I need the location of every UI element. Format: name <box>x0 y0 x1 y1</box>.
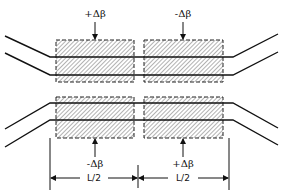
top-coupler: +Δβ -Δβ <box>5 8 278 82</box>
bottom-coupler: -Δβ +Δβ <box>5 97 278 169</box>
length-dimensions: L/2 L/2 <box>50 138 229 190</box>
top-right-delta-beta-label: -Δβ <box>175 8 192 19</box>
top-left-delta-beta-label: +Δβ <box>84 8 106 19</box>
coupler-diagram: +Δβ -Δβ -Δβ +Δβ L/2 L/2 <box>0 0 283 192</box>
dim-right-label: L/2 <box>176 173 190 183</box>
bottom-waveguide-lower <box>5 120 278 147</box>
bottom-waveguide-upper <box>5 103 278 129</box>
top-waveguide-upper <box>5 34 278 57</box>
bottom-right-delta-beta-label: +Δβ <box>172 158 194 169</box>
bottom-left-delta-beta-label: -Δβ <box>87 158 104 169</box>
dim-left-label: L/2 <box>87 173 101 183</box>
